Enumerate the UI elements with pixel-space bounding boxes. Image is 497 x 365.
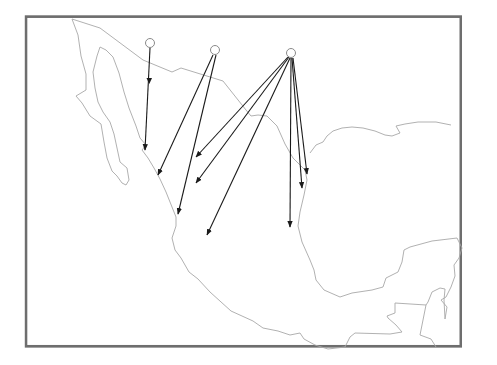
flow-arrow bbox=[145, 48, 150, 150]
gulf-coast bbox=[298, 170, 462, 319]
flow-arrows bbox=[145, 48, 307, 235]
us-mexico-border bbox=[72, 19, 305, 170]
origin-marker-2 bbox=[211, 46, 220, 55]
flow-arrow bbox=[158, 55, 213, 175]
guatemala-border bbox=[345, 303, 436, 347]
flow-arrow bbox=[196, 57, 288, 157]
baja-california-coast bbox=[72, 19, 176, 250]
origin-marker-3 bbox=[287, 49, 296, 58]
mid-arrowhead-icon bbox=[147, 78, 153, 84]
flow-arrow bbox=[178, 55, 216, 214]
flow-arrow bbox=[196, 57, 289, 183]
us-gulf-coast bbox=[310, 122, 451, 153]
migration-map bbox=[0, 0, 497, 365]
pacific-coast bbox=[175, 250, 345, 349]
map-border bbox=[26, 17, 461, 347]
flow-arrow bbox=[290, 58, 291, 227]
flow-arrow bbox=[207, 58, 290, 235]
origin-marker-1 bbox=[146, 39, 155, 48]
belize-border bbox=[426, 288, 445, 319]
